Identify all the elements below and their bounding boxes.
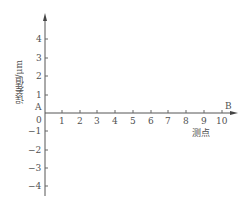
y-tick-label: 1 (36, 91, 42, 100)
x-axis-arrow-icon (230, 111, 238, 115)
x-tick-label: 7 (165, 117, 171, 126)
x-tick-label: 6 (148, 117, 154, 126)
y-axis-arrow-icon (43, 13, 47, 21)
x-tick-label: 3 (94, 117, 100, 126)
x-tick-label: 4 (112, 117, 118, 126)
origin-label: 0 (36, 116, 42, 125)
x-tick-label: 2 (77, 117, 83, 126)
y-tick-label: 4 (36, 35, 42, 44)
y-tick-label: −2 (28, 146, 41, 155)
x-tick-label: 8 (183, 117, 189, 126)
y-tick-label: −1 (28, 127, 41, 136)
x-tick-label: 1 (59, 117, 65, 126)
x-tick-label: 5 (130, 117, 136, 126)
y-tick-label: −3 (28, 164, 41, 173)
x-tick-label: 9 (201, 117, 207, 126)
point-b-label: B (225, 102, 232, 111)
y-tick-label: 3 (36, 54, 42, 63)
x-axis-title: 测点 (192, 129, 210, 138)
point-a-label: A (35, 103, 42, 112)
x-tick-label: 10 (216, 117, 227, 126)
y-tick-label: −4 (28, 182, 41, 191)
y-axis-title: 误差值/μm (12, 60, 25, 104)
y-tick-label: 2 (36, 72, 42, 81)
